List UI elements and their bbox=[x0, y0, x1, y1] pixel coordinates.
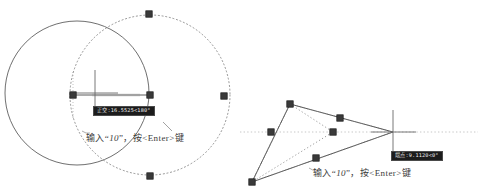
dynamic-input-tooltip-right[interactable]: 端点:9.1120<0° bbox=[391, 151, 443, 161]
grip-mid-upper[interactable] bbox=[337, 115, 343, 121]
grip-mid-left[interactable] bbox=[268, 129, 274, 135]
caption-value-left: 10 bbox=[109, 133, 119, 143]
caption-value-right: 10 bbox=[336, 168, 346, 178]
grip-ghost-right[interactable] bbox=[221, 93, 227, 99]
tooltip-value-right: 9.1120 bbox=[409, 152, 429, 158]
illustration-canvas: 正交:16.5525<180° 输入“10”，按<Enter>键 端点:9.11… bbox=[0, 0, 478, 190]
crosshair-cursor-right bbox=[371, 110, 416, 155]
grip-endpoint[interactable] bbox=[330, 129, 336, 135]
grip-vertex-top[interactable] bbox=[287, 101, 293, 107]
grip-base-point[interactable] bbox=[70, 92, 76, 98]
vector-stage bbox=[0, 0, 478, 190]
tooltip-angle-right: 0° bbox=[432, 152, 439, 158]
grip-vertex-bottom[interactable] bbox=[249, 179, 255, 185]
instruction-caption-right: 输入“10”，按<Enter>键 bbox=[313, 166, 411, 179]
dynamic-input-tooltip-left[interactable]: 正交:16.5525<180° bbox=[93, 106, 155, 116]
tooltip-label-right: 端点: bbox=[395, 152, 409, 158]
caption-leader-left bbox=[163, 122, 172, 131]
tooltip-value-left: 16.5525 bbox=[111, 107, 134, 113]
grip-ghost-top[interactable] bbox=[146, 11, 152, 17]
tooltip-label-left: 正交: bbox=[97, 107, 111, 113]
grip-mid-lower[interactable] bbox=[313, 155, 319, 161]
grip-ghost-bottom[interactable] bbox=[147, 173, 153, 179]
caption-prefix-right: 输入“ bbox=[313, 168, 336, 178]
grip-drag-point[interactable] bbox=[147, 92, 153, 98]
caption-suffix-right: ”，按<Enter>键 bbox=[346, 168, 411, 178]
caption-prefix-left: 输入“ bbox=[86, 133, 109, 143]
caption-suffix-left: ”，按<Enter>键 bbox=[119, 133, 184, 143]
tooltip-angle-left: 180° bbox=[137, 107, 150, 113]
instruction-caption-left: 输入“10”，按<Enter>键 bbox=[86, 131, 184, 144]
left-panel-geometry bbox=[5, 11, 230, 179]
